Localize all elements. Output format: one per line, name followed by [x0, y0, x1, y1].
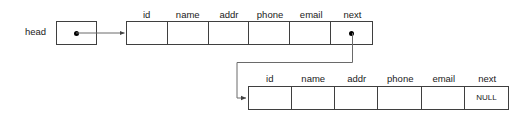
node-1-header-row: id name addr phone email next: [126, 8, 373, 21]
node-2-cell-next-null: NULL: [465, 87, 508, 109]
node-2-header-addr: addr: [335, 72, 379, 85]
node-1-header-phone: phone: [249, 8, 290, 21]
node-1-header-next: next: [332, 8, 373, 21]
node-1-header-email: email: [291, 8, 332, 21]
head-label: head: [25, 26, 46, 38]
head-pointer-box: [56, 21, 97, 45]
node-1-cell-phone: [249, 22, 290, 44]
node-1-header-name: name: [167, 8, 208, 21]
head-pointer-dot: [74, 31, 79, 36]
node-2: NULL: [248, 86, 509, 110]
node-2-header-id: id: [248, 72, 292, 85]
node-2-cell-name: [292, 87, 335, 109]
node-1-cell-next: [331, 22, 372, 44]
node-2-header-phone: phone: [379, 72, 423, 85]
node-2-cell-id: [249, 87, 292, 109]
node-1-header-id: id: [126, 8, 167, 21]
node-2-cell-phone: [378, 87, 421, 109]
node-1-cell-email: [290, 22, 331, 44]
node-1-next-pointer-dot: [349, 31, 354, 36]
node-2-header-name: name: [292, 72, 336, 85]
node-2-header-next: next: [466, 72, 510, 85]
node-2-cell-email: [422, 87, 465, 109]
node-1-cell-id: [127, 22, 168, 44]
node-1-cell-addr: [209, 22, 250, 44]
node-2-cell-addr: [335, 87, 378, 109]
node-1: [126, 21, 373, 45]
node-1-cell-name: [168, 22, 209, 44]
node-1-header-addr: addr: [208, 8, 249, 21]
node-2-header-row: id name addr phone email next: [248, 72, 509, 85]
linked-list-diagram: head id name addr phone email next id na…: [0, 0, 519, 116]
node-2-header-email: email: [422, 72, 466, 85]
